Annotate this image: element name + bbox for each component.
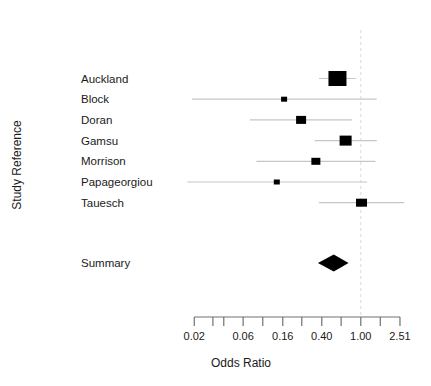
x-axis-tick-label: 0.40 [311,330,332,342]
effect-box-doran [296,116,306,124]
effect-box-papageorgiou [274,180,280,185]
x-axis-tick-label: 1.00 [350,330,371,342]
effect-box-tauesch [356,199,367,207]
study-label-block: Block [81,93,109,105]
study-label-gamsu: Gamsu [81,135,118,147]
y-axis-title: Study Reference [10,120,24,210]
effect-box-morrison [311,158,320,165]
x-axis-title: Odds Ratio [211,356,271,370]
summary-diamond [318,255,349,272]
x-axis-tick-label: 0.06 [232,330,253,342]
study-label-morrison: Morrison [81,155,126,167]
study-label-auckland: Auckland [81,73,128,85]
effect-box-block [281,97,287,102]
effect-box-auckland [328,71,346,86]
study-label-tauesch: Tauesch [81,197,124,209]
x-axis-tick-label: 0.16 [272,330,293,342]
effect-box-gamsu [340,136,352,146]
forest-plot-figure: AucklandBlockDoranGamsuMorrisonPapageorg… [0,0,431,386]
summary-label: Summary [81,257,130,269]
study-label-papageorgiou: Papageorgiou [81,176,153,188]
forest-plot-canvas: AucklandBlockDoranGamsuMorrisonPapageorg… [0,0,431,386]
x-axis-tick-label: 0.02 [184,330,205,342]
plot-marks: AucklandBlockDoranGamsuMorrisonPapageorg… [81,30,411,342]
study-label-doran: Doran [81,114,112,126]
x-axis-tick-label: 2.51 [389,330,410,342]
